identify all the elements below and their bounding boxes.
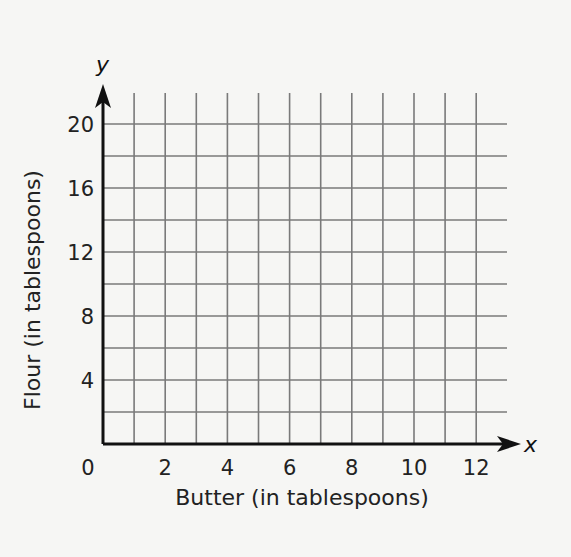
y-axis-symbol: y (95, 52, 110, 77)
y-tick-label: 8 (81, 305, 94, 329)
x-axis-title: Butter (in tablespoons) (175, 485, 429, 510)
x-axis-symbol: x (523, 432, 538, 457)
coordinate-grid-chart: yx02468101248121620Butter (in tablespoon… (0, 0, 571, 557)
x-tick-label: 4 (221, 456, 234, 480)
x-tick-label: 2 (159, 456, 172, 480)
x-tick-label: 0 (81, 456, 94, 480)
y-tick-label: 12 (67, 241, 94, 265)
x-tick-label: 8 (345, 456, 358, 480)
x-tick-label: 12 (463, 456, 490, 480)
y-tick-label: 16 (67, 177, 94, 201)
x-tick-label: 6 (283, 456, 296, 480)
y-tick-label: 4 (81, 369, 94, 393)
y-axis-title: Flour (in tablespoons) (20, 170, 45, 410)
y-tick-label: 20 (67, 113, 94, 137)
x-tick-label: 10 (401, 456, 428, 480)
